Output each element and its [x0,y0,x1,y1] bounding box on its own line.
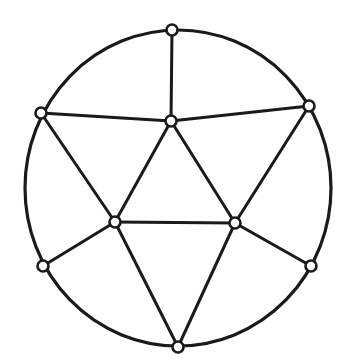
edge-inner-left-inner-right [115,222,235,223]
edge-upper-left-center [41,113,171,121]
edge-upper-right-center [171,106,309,121]
vertex-lower-right [306,261,317,272]
edge-inner-left-lower-left [43,222,115,266]
edge-top-center [171,30,172,121]
vertices-group [36,25,317,353]
edge-inner-right-bottom [178,223,235,347]
vertex-inner-right [230,218,241,229]
outer-circle [25,30,331,346]
graph-diagram [0,0,351,364]
vertex-bottom [173,342,184,353]
vertex-top [167,25,178,36]
vertex-upper-left [36,108,47,119]
edge-upper-left-inner-left [41,113,115,222]
edge-inner-right-lower-right [235,223,311,266]
vertex-inner-left [110,217,121,228]
edge-inner-left-bottom [115,222,178,347]
edge-center-inner-left [115,121,171,222]
vertex-center [166,116,177,127]
vertex-upper-right [304,101,315,112]
edge-upper-right-inner-right [235,106,309,223]
edge-center-inner-right [171,121,235,223]
edges-group [41,30,311,347]
vertex-lower-left [38,261,49,272]
